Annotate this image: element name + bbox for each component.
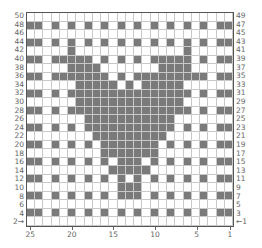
cell-light — [159, 47, 167, 56]
cell-light — [85, 183, 93, 192]
cell-light — [184, 200, 192, 209]
cell-dark — [118, 56, 126, 65]
cell-dark — [35, 124, 43, 133]
cell-light — [192, 115, 200, 124]
cell-light — [126, 200, 134, 209]
cell-light — [192, 30, 200, 39]
cell-light — [208, 30, 216, 39]
cell-light — [68, 115, 76, 124]
cell-dark — [200, 39, 208, 48]
cell-dark — [217, 141, 225, 150]
cell-light — [184, 98, 192, 107]
cell-dark — [35, 90, 43, 99]
cell-light — [126, 64, 134, 73]
cell-dark — [175, 81, 183, 90]
cell-light — [52, 183, 60, 192]
cell-dark — [85, 90, 93, 99]
cell-light — [192, 217, 200, 226]
cell-dark — [118, 98, 126, 107]
cell-light — [208, 132, 216, 141]
cell-light — [192, 149, 200, 158]
cell-dark — [134, 124, 142, 133]
cell-dark — [126, 107, 134, 116]
cell-light — [60, 115, 68, 124]
cell-light — [167, 183, 175, 192]
cell-light — [167, 200, 175, 209]
cell-light — [151, 13, 159, 22]
cell-light — [27, 98, 35, 107]
cell-dark — [175, 73, 183, 82]
cell-dark — [151, 175, 159, 184]
cell-dark — [93, 98, 101, 107]
cell-light — [208, 183, 216, 192]
cell-light — [85, 149, 93, 158]
cell-light — [60, 22, 68, 31]
cell-light — [109, 56, 117, 65]
cell-light — [93, 200, 101, 209]
cell-light — [151, 47, 159, 56]
cell-light — [118, 13, 126, 22]
cell-light — [134, 64, 142, 73]
cell-light — [175, 217, 183, 226]
cell-light — [60, 90, 68, 99]
cell-light — [192, 13, 200, 22]
cell-light — [93, 13, 101, 22]
cell-dark — [68, 73, 76, 82]
cell-dark — [142, 98, 150, 107]
cell-dark — [134, 149, 142, 158]
cell-light — [85, 200, 93, 209]
cell-dark — [101, 73, 109, 82]
cell-dark — [175, 98, 183, 107]
cell-light — [126, 30, 134, 39]
cell-dark — [52, 209, 60, 218]
cell-light — [68, 200, 76, 209]
cell-dark — [175, 64, 183, 73]
cell-light — [184, 149, 192, 158]
cell-light — [167, 149, 175, 158]
cell-light — [109, 64, 117, 73]
cell-dark — [93, 107, 101, 116]
cell-light — [142, 39, 150, 48]
cell-light — [192, 107, 200, 116]
cell-light — [159, 141, 167, 150]
cell-light — [225, 183, 233, 192]
cell-dark — [159, 64, 167, 73]
cell-light — [225, 149, 233, 158]
cell-light — [43, 124, 51, 133]
cell-light — [175, 158, 183, 167]
cell-dark — [68, 124, 76, 133]
cell-dark — [126, 183, 134, 192]
cell-dark — [101, 22, 109, 31]
cell-light — [167, 132, 175, 141]
cell-light — [35, 98, 43, 107]
cell-light — [159, 183, 167, 192]
cell-dark — [184, 56, 192, 65]
cell-dark — [126, 98, 134, 107]
cell-dark — [109, 81, 117, 90]
cell-dark — [151, 98, 159, 107]
cell-light — [76, 217, 84, 226]
cell-light — [134, 200, 142, 209]
cell-dark — [225, 175, 233, 184]
cell-light — [68, 30, 76, 39]
cell-dark — [35, 192, 43, 201]
cell-light — [208, 141, 216, 150]
cell-light — [60, 183, 68, 192]
cell-dark — [159, 98, 167, 107]
cell-dark — [27, 107, 35, 116]
cell-light — [184, 115, 192, 124]
cell-light — [76, 115, 84, 124]
cell-light — [192, 47, 200, 56]
cell-light — [208, 56, 216, 65]
cell-dark — [151, 56, 159, 65]
cell-dark — [167, 158, 175, 167]
cell-light — [192, 124, 200, 133]
cell-light — [134, 30, 142, 39]
cell-dark — [35, 175, 43, 184]
cell-dark — [109, 124, 117, 133]
cell-light — [93, 217, 101, 226]
cell-light — [109, 13, 117, 22]
cell-dark — [184, 73, 192, 82]
cell-light — [76, 47, 84, 56]
cell-light — [118, 200, 126, 209]
